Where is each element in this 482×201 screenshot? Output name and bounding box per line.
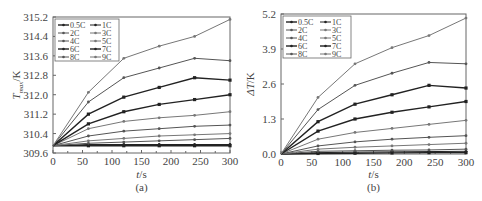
x-tick-label: 200 [396,156,413,168]
data-marker [193,35,196,38]
data-marker [193,138,196,141]
data-marker [193,76,196,79]
series-5C [53,110,231,145]
data-marker [122,110,125,113]
data-marker [122,143,125,146]
data-marker [428,149,431,152]
data-marker [193,114,196,117]
y-tick-label: 1.3 [262,113,276,125]
x-tick-label: 250 [427,156,444,168]
data-marker [317,148,320,151]
panel-caption: (a) [135,181,148,194]
data-marker [229,59,232,62]
legend-label: 8C [298,50,307,59]
data-marker [391,127,394,130]
data-marker [193,125,196,128]
data-marker [317,108,320,111]
data-marker [317,145,320,148]
data-marker [391,149,394,152]
data-marker [122,130,125,133]
x-axis-label: t/s [136,168,146,180]
legend-label: 8C [70,53,79,62]
x-tick-label: 200 [163,155,180,167]
data-marker [158,135,161,138]
data-marker [193,143,196,146]
series-7C [53,76,232,146]
data-marker [158,45,161,48]
data-marker [390,111,393,114]
data-marker [228,79,231,82]
y-tick-label: 5.2 [262,8,276,20]
data-marker [87,139,90,142]
x-tick-label: 100 [104,155,121,167]
data-marker [122,141,125,144]
data-marker [353,117,356,120]
data-marker [390,93,393,96]
data-marker [428,136,431,139]
data-marker [316,130,319,133]
data-marker [158,139,161,142]
data-marker [317,96,320,99]
data-marker [158,86,161,89]
data-marker [229,18,232,21]
data-marker [316,120,319,123]
data-marker [87,127,90,130]
data-marker [391,72,394,75]
data-marker [193,57,196,60]
data-marker [391,145,394,148]
x-tick-label: 50 [306,156,318,168]
y-tick-label: 309.6 [23,147,48,159]
y-axis-label: ΔT/K [244,72,256,97]
figure: 050100150200250300309.6310.4311.2312.031… [0,0,482,201]
data-marker [427,105,430,108]
legend: 0.5C1C2C3C4C5C6C7C8C9C [283,16,351,59]
data-marker [87,101,90,104]
x-tick-label: 300 [458,156,475,168]
x-tick-label: 150 [365,156,382,168]
data-marker [87,142,90,145]
y-tick-label: 313.6 [23,50,48,62]
data-marker [353,103,356,106]
data-marker [428,61,431,64]
data-marker [158,116,161,119]
data-marker [428,123,431,126]
data-marker [354,140,357,143]
data-marker [354,131,357,134]
series-6C [281,100,468,154]
y-tick-label: 311.2 [24,108,48,120]
legend-label: 9C [332,50,341,59]
chart-panel-a: 050100150200250300309.6310.4311.2312.031… [10,11,239,194]
x-axis-label: t/s [368,168,378,180]
data-marker [87,113,90,116]
data-marker [465,62,468,65]
data-marker [427,84,430,87]
y-tick-label: 314.4 [23,30,48,42]
data-marker [158,127,161,130]
data-marker [428,34,431,37]
x-tick-label: 150 [133,155,150,167]
data-marker [158,143,161,146]
data-marker [122,96,125,99]
y-tick-label: 310.4 [23,128,48,140]
data-marker [354,149,357,152]
x-tick-label: 50 [77,155,89,167]
data-marker [229,110,232,113]
data-marker [465,134,468,137]
data-marker [465,17,468,20]
chart-panel-b: 0501001502002503000.01.32.63.95.20.5C1C2… [244,8,475,194]
data-marker [354,146,357,149]
y-tick-label: 312.0 [23,89,48,101]
x-tick-label: 300 [222,155,239,167]
series-7C [281,84,468,154]
data-marker [193,133,196,136]
data-marker [465,119,468,122]
data-marker [228,93,231,96]
data-marker [229,143,232,146]
x-tick-label: 0 [50,155,56,167]
data-marker [464,100,467,103]
x-tick-label: 0 [278,156,284,168]
data-marker [122,137,125,140]
data-marker [465,142,468,145]
y-tick-label: 312.8 [23,69,48,81]
data-marker [158,67,161,70]
